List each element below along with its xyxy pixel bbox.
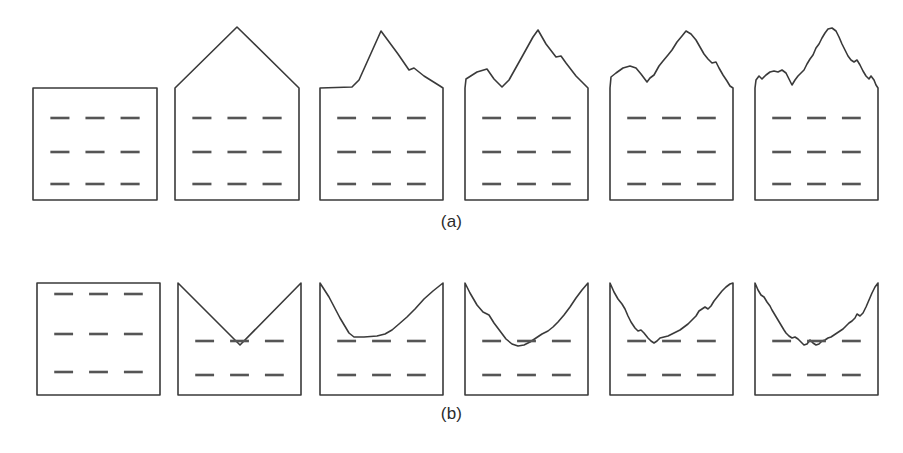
- panel-row-row-b: [37, 283, 878, 395]
- panel-row-b-0: [37, 283, 160, 395]
- panel-row-a-0: [33, 88, 157, 200]
- panel-row-b-4: [610, 283, 733, 395]
- panel-row-a-4: [610, 31, 733, 200]
- panel-row-a-5: [755, 28, 878, 200]
- panel-row-b-3: [465, 283, 588, 395]
- figure-root: (a) (b): [0, 0, 903, 453]
- panel-outline: [465, 283, 588, 395]
- panel-outline: [178, 283, 301, 395]
- panel-row-b-2: [320, 283, 443, 395]
- panel-row-a-2: [320, 31, 443, 200]
- panel-outline: [320, 283, 443, 395]
- panel-outline: [755, 28, 878, 200]
- panel-outline: [465, 30, 588, 200]
- panel-outline: [755, 283, 878, 395]
- panel-outline: [320, 31, 443, 200]
- panel-outline: [610, 283, 733, 395]
- panel-row-a-1: [175, 27, 299, 200]
- panel-outline: [37, 283, 160, 395]
- panel-row-b-5: [755, 283, 878, 395]
- panel-outline: [175, 27, 299, 200]
- row-caption-b: (b): [0, 404, 903, 424]
- panel-row-a-3: [465, 30, 588, 200]
- panel-row-row-a: [33, 27, 878, 200]
- panel-row-b-1: [178, 283, 301, 395]
- row-caption-a: (a): [0, 212, 903, 232]
- panel-outline: [610, 31, 733, 200]
